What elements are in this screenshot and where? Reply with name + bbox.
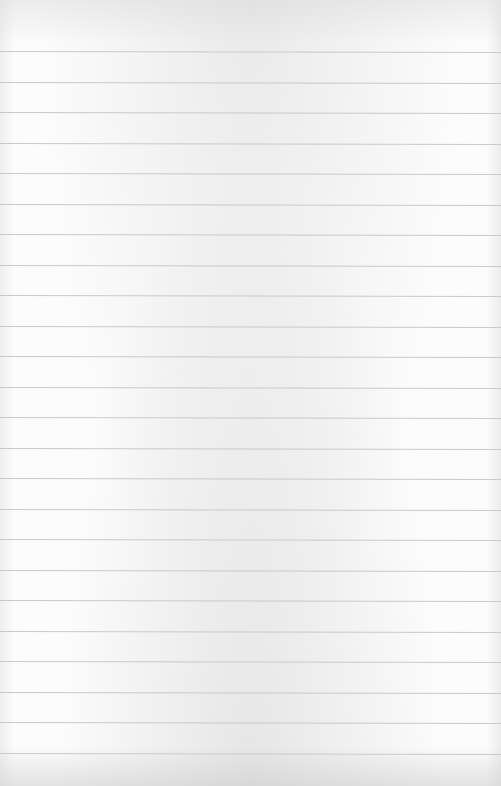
ruled-line [0, 295, 501, 297]
ruled-line [0, 692, 501, 694]
ruled-line [0, 173, 501, 175]
paper-bottom-edge-shading [0, 746, 501, 786]
ruled-line [0, 600, 501, 602]
ruled-line [0, 51, 501, 53]
ruled-line [0, 448, 501, 450]
ruled-line [0, 143, 501, 145]
ruled-line [0, 722, 501, 724]
ruled-line [0, 509, 501, 511]
ruled-line [0, 387, 501, 389]
ruled-line [0, 539, 501, 541]
ruled-line [0, 265, 501, 267]
lined-paper-sheet [0, 0, 501, 786]
ruled-line [0, 82, 501, 84]
ruled-line [0, 204, 501, 206]
ruled-line [0, 631, 501, 633]
ruled-line [0, 478, 501, 480]
ruled-line [0, 112, 501, 114]
ruled-line [0, 417, 501, 419]
ruled-line [0, 326, 501, 328]
ruled-line [0, 356, 501, 358]
paper-top-edge-shading [0, 0, 501, 45]
ruled-line [0, 661, 501, 663]
ruled-line [0, 234, 501, 236]
ruled-line [0, 570, 501, 572]
